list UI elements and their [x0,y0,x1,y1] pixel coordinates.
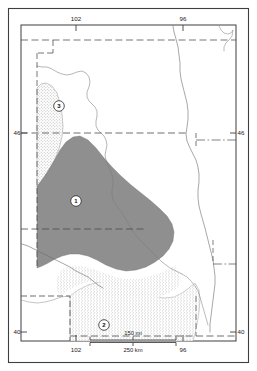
latitude-label-left-46: 46 [13,129,21,136]
scale-bar-miles-label: 150 mi [124,330,141,336]
map-canvas: 102 96 102 96 46 40 46 40 3 1 2 150 mi [0,0,257,371]
region-marker-3: 3 [54,101,65,112]
latitude-label-right-40: 40 [237,328,245,335]
latitude-label-left-40: 40 [13,328,21,335]
region-marker-2: 2 [99,320,110,331]
latitude-label-right-46: 46 [237,129,245,136]
longitude-label-top-102: 102 [71,15,82,22]
scale-bar-km-label: 250 km [123,347,142,353]
longitude-label-bottom-102: 102 [71,346,82,353]
longitude-label-bottom-96: 96 [179,346,187,353]
map-figure: 102 96 102 96 46 40 46 40 3 1 2 150 mi [0,0,257,371]
longitude-label-top-96: 96 [179,15,187,22]
region-marker-1: 1 [71,196,82,207]
